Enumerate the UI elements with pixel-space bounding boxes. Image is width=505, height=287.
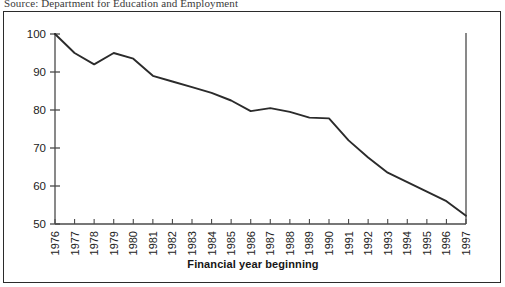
svg-text:70: 70: [33, 142, 46, 154]
svg-text:1978: 1978: [88, 231, 100, 255]
x-axis-title: Financial year beginning: [4, 258, 502, 270]
source-caption: Source: Department for Education and Emp…: [4, 0, 238, 9]
svg-text:1991: 1991: [343, 231, 355, 255]
svg-text:1981: 1981: [147, 231, 159, 255]
svg-text:60: 60: [33, 180, 46, 192]
svg-text:1980: 1980: [127, 231, 139, 255]
chart-frame: 5060708090100197619771978197919801981198…: [3, 11, 501, 283]
svg-text:1986: 1986: [245, 231, 257, 255]
svg-text:1985: 1985: [225, 231, 237, 255]
svg-text:1982: 1982: [166, 231, 178, 255]
line-chart: 5060708090100197619771978197919801981198…: [4, 12, 502, 284]
svg-text:80: 80: [33, 104, 46, 116]
svg-text:1992: 1992: [362, 231, 374, 255]
svg-text:100: 100: [27, 28, 46, 40]
svg-text:1983: 1983: [186, 231, 198, 255]
svg-text:1993: 1993: [382, 231, 394, 255]
svg-text:1977: 1977: [69, 231, 81, 255]
svg-text:1996: 1996: [440, 231, 452, 255]
svg-text:1990: 1990: [323, 231, 335, 255]
svg-text:1984: 1984: [206, 231, 218, 255]
svg-text:1976: 1976: [49, 231, 61, 255]
svg-text:1994: 1994: [401, 231, 413, 255]
plot-area: 5060708090100197619771978197919801981198…: [4, 12, 502, 284]
svg-text:90: 90: [33, 66, 46, 78]
svg-text:1979: 1979: [108, 231, 120, 255]
svg-text:1989: 1989: [303, 231, 315, 255]
svg-text:1997: 1997: [460, 231, 472, 255]
svg-text:1995: 1995: [421, 231, 433, 255]
figure-root: Source: Department for Education and Emp…: [0, 0, 505, 287]
svg-text:1987: 1987: [264, 231, 276, 255]
svg-text:1988: 1988: [284, 231, 296, 255]
svg-text:50: 50: [33, 218, 46, 230]
